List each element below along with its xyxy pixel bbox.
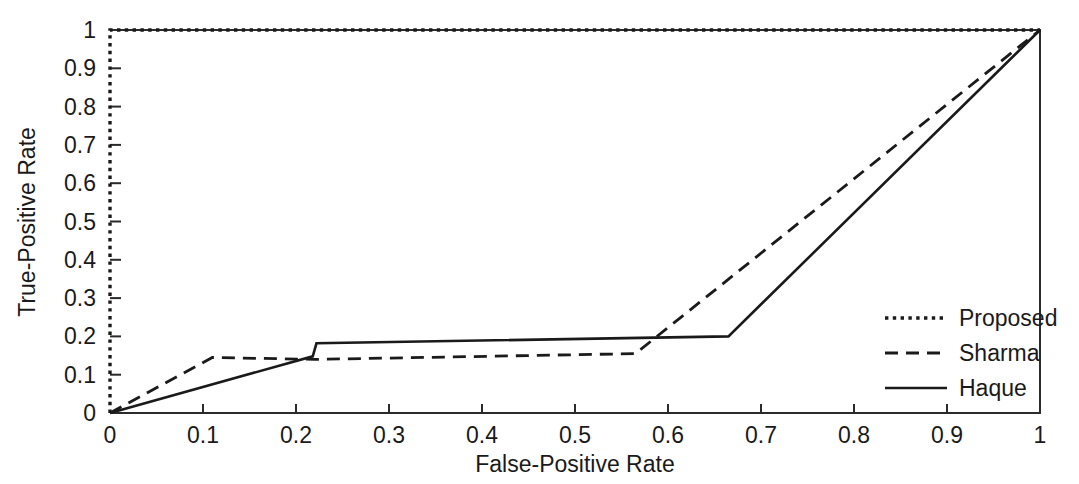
y-tick-label: 1 <box>83 17 96 43</box>
x-tick-label: 0 <box>104 422 117 448</box>
x-tick-label: 0.3 <box>373 422 405 448</box>
series-line-sharma <box>110 30 1040 413</box>
y-tick-label: 0.4 <box>64 247 96 273</box>
y-tick-label: 0.2 <box>64 323 96 349</box>
series-line-haque <box>110 30 1040 413</box>
y-axis-tick-labels: 00.10.20.30.40.50.60.70.80.91 <box>64 17 96 426</box>
x-axis-tick-labels: 00.10.20.30.40.50.60.70.80.91 <box>104 422 1047 448</box>
y-axis-title: True-Positive Rate <box>14 127 40 317</box>
x-tick-label: 1 <box>1034 422 1047 448</box>
x-tick-label: 0.6 <box>652 422 684 448</box>
chart-legend: ProposedSharmaHaque <box>885 305 1057 401</box>
x-tick-label: 0.1 <box>187 422 219 448</box>
x-axis-title: False-Positive Rate <box>475 451 674 477</box>
y-tick-label: 0.5 <box>64 209 96 235</box>
x-axis-tick-marks <box>203 404 1040 413</box>
x-tick-label: 0.7 <box>745 422 777 448</box>
y-tick-label: 0.9 <box>64 55 96 81</box>
plot-frame-path <box>110 30 1040 413</box>
x-tick-label: 0.4 <box>466 422 498 448</box>
y-tick-label: 0.7 <box>64 132 96 158</box>
y-tick-label: 0.1 <box>64 362 96 388</box>
y-tick-label: 0.3 <box>64 285 96 311</box>
roc-chart-canvas: 00.10.20.30.40.50.60.70.80.91 00.10.20.3… <box>0 0 1079 484</box>
x-tick-label: 0.5 <box>559 422 591 448</box>
y-tick-label: 0.6 <box>64 170 96 196</box>
x-tick-label: 0.8 <box>838 422 870 448</box>
y-tick-label: 0.8 <box>64 94 96 120</box>
roc-curve-figure: 00.10.20.30.40.50.60.70.80.91 00.10.20.3… <box>0 0 1079 484</box>
legend-label-proposed: Proposed <box>959 305 1057 331</box>
data-series-group <box>110 30 1040 413</box>
x-tick-label: 0.9 <box>931 422 963 448</box>
legend-label-haque: Haque <box>959 375 1027 401</box>
x-tick-label: 0.2 <box>280 422 312 448</box>
y-tick-label: 0 <box>83 400 96 426</box>
legend-label-sharma: Sharma <box>959 340 1040 366</box>
series-line-proposed <box>110 30 1040 413</box>
plot-frame <box>110 30 1040 413</box>
